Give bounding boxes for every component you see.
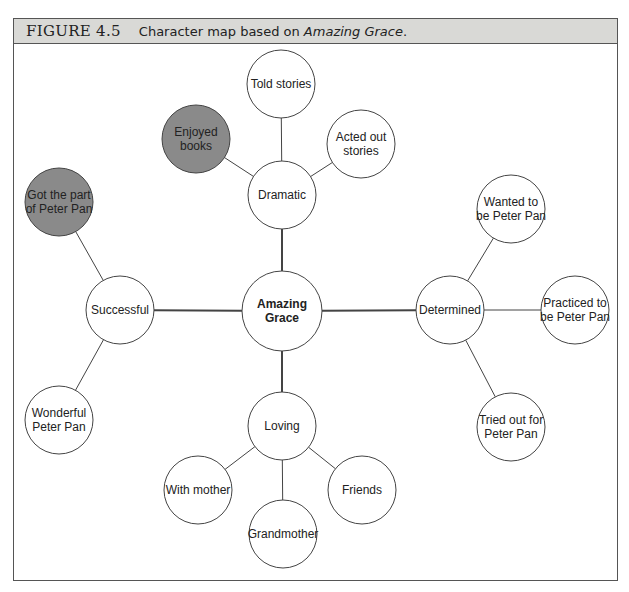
node-label: Wanted to (484, 195, 539, 209)
edge-loving-withmother (225, 447, 255, 470)
edge-successful-gotpart (76, 232, 104, 281)
node-label: Acted out (336, 130, 387, 144)
node-label: With mother (166, 483, 231, 497)
node-determined: Determined (416, 276, 484, 344)
edge-center-successful (154, 310, 242, 311)
node-label: be Peter Pan (540, 310, 610, 324)
node-enjoyed: Enjoyedbooks (162, 105, 230, 173)
node-label: of Peter Pan (26, 202, 93, 216)
node-label: Amazing (257, 297, 307, 311)
node-practiced: Practiced tobe Peter Pan (540, 276, 610, 344)
edge-successful-wonderful (75, 340, 103, 391)
node-label: Peter Pan (484, 427, 537, 441)
node-told: Told stories (247, 50, 315, 118)
node-dramatic: Dramatic (248, 161, 316, 229)
node-label: Determined (419, 303, 481, 317)
node-label: Loving (264, 419, 299, 433)
node-label: Told stories (251, 77, 312, 91)
node-label: stories (343, 144, 378, 158)
node-label: books (180, 139, 212, 153)
edge-loving-friends (309, 447, 336, 469)
node-loving: Loving (248, 392, 316, 460)
node-gotpart: Got the partof Peter Pan (25, 168, 93, 236)
edge-determined-tried (466, 340, 496, 397)
node-label: Friends (342, 483, 382, 497)
node-tried: Tried out forPeter Pan (477, 393, 545, 461)
node-label: Dramatic (258, 188, 306, 202)
node-withmother: With mother (164, 456, 232, 524)
character-map: AmazingGraceDramaticTold storiesEnjoyedb… (0, 0, 629, 592)
node-label: Practiced to (543, 296, 607, 310)
edge-determined-wanted (468, 238, 494, 281)
node-wonderful: WonderfulPeter Pan (25, 386, 93, 454)
node-label: Grandmother (248, 527, 319, 541)
node-label: Got the part (27, 188, 91, 202)
node-friends: Friends (328, 456, 396, 524)
node-label: Tried out for (479, 413, 543, 427)
node-acted: Acted outstories (327, 110, 395, 178)
edge-center-determined (322, 310, 416, 311)
node-label: Wonderful (32, 406, 86, 420)
node-label: Successful (91, 303, 149, 317)
node-label: Grace (265, 311, 299, 325)
node-successful: Successful (86, 276, 154, 344)
node-label: Peter Pan (32, 420, 85, 434)
edge-dramatic-acted (311, 162, 333, 176)
node-grandmother: Grandmother (248, 500, 319, 568)
node-center: AmazingGrace (242, 271, 322, 351)
node-label: Enjoyed (174, 125, 217, 139)
node-label: be Peter Pan (476, 209, 546, 223)
edge-dramatic-enjoyed (224, 158, 253, 177)
node-wanted: Wanted tobe Peter Pan (476, 175, 546, 243)
